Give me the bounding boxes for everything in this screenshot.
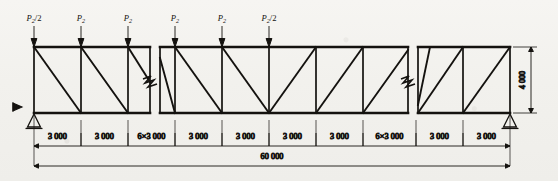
dimension-overall: 60 000 — [34, 146, 510, 168]
support-left — [13, 103, 43, 129]
break-symbol-right — [401, 76, 415, 87]
truss-figure: P2/2 P2 P2 P2 P2 P2/2 — [0, 0, 558, 181]
dimension-label-4: 3 000 — [189, 132, 208, 141]
diagonal-r1 — [269, 47, 316, 113]
dimension-label-9: 3 000 — [430, 132, 449, 141]
load-arrow-3 — [125, 26, 131, 47]
load-label-6: P2/2 — [260, 13, 276, 24]
dimension-height: 4 000 — [513, 47, 537, 113]
truss-drawing: P2/2 P2 P2 P2 P2 P2/2 — [0, 0, 558, 181]
dimension-label-8: 6×3 000 — [376, 132, 404, 141]
diagonal-r6 — [463, 47, 510, 113]
load-label-4: P2 — [170, 13, 179, 24]
dimension-label-2: 3 000 — [95, 132, 114, 141]
diagonal-r5 — [418, 47, 463, 113]
dimension-label-7: 3 000 — [330, 132, 349, 141]
dimension-chain: 3 000 3 000 6×3 000 3 000 3 000 3 000 3 … — [34, 116, 510, 148]
dimension-label-1: 3 000 — [48, 132, 67, 141]
dimension-height-label: 4 000 — [518, 71, 527, 89]
diagonal-r2 — [316, 47, 363, 113]
diagonal-l5 — [175, 47, 222, 113]
load-arrow-2 — [78, 26, 84, 47]
load-label-5: P2 — [217, 13, 226, 24]
load-label-1: P2/2 — [25, 13, 41, 24]
diagonal-l6 — [222, 47, 269, 113]
load-arrows-group — [31, 26, 272, 47]
load-arrow-4 — [172, 26, 178, 47]
dimension-overall-label: 60 000 — [260, 152, 283, 161]
break-symbol-left — [143, 76, 157, 87]
truss-frame — [34, 47, 510, 113]
dimension-label-6: 3 000 — [283, 132, 302, 141]
load-label-2: P2 — [76, 13, 85, 24]
dimension-label-5: 3 000 — [236, 132, 255, 141]
load-arrow-6 — [266, 26, 272, 47]
dimension-extension-lines — [34, 116, 510, 146]
dimension-label-3: 6×3 000 — [138, 132, 166, 141]
load-arrow-1 — [31, 26, 37, 47]
diagonal-l3 — [128, 47, 150, 82]
diagonal-l1 — [34, 47, 81, 113]
supports-group — [13, 103, 519, 129]
diagonals-right-half — [269, 47, 510, 113]
break-symbols-group — [143, 76, 415, 87]
diagonal-r4 — [418, 47, 430, 105]
diagonal-l2 — [81, 47, 128, 113]
dimension-label-10: 3 000 — [477, 132, 496, 141]
diagonal-l4 — [160, 58, 175, 113]
diagonal-r3 — [363, 50, 408, 113]
load-labels-group: P2/2 P2 P2 P2 P2 P2/2 — [25, 13, 276, 24]
load-arrow-5 — [219, 26, 225, 47]
load-label-3: P2 — [123, 13, 132, 24]
